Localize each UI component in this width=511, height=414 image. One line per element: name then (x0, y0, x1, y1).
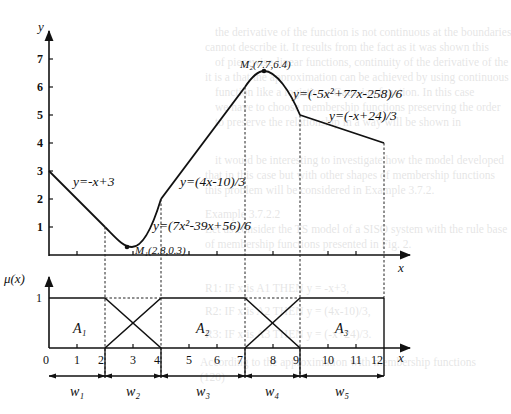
svg-text:0: 0 (43, 353, 49, 367)
x-tick-labels: 0 1 2 3 4 5 6 7 8 9 10 11 12 (43, 353, 383, 367)
svg-text:10: 10 (322, 353, 334, 367)
svg-text:9: 9 (293, 353, 299, 367)
svg-text:3: 3 (130, 353, 136, 367)
svg-text:5: 5 (186, 353, 192, 367)
piece-quadratic-4 (245, 71, 300, 115)
label-w2: w₂ (126, 384, 140, 399)
y-axis-label: y (36, 19, 44, 34)
y-tick-1: 1 (37, 220, 43, 234)
svg-text:11: 11 (350, 353, 362, 367)
y-tick-5: 5 (37, 108, 43, 122)
label-w4: w₄ (265, 384, 279, 399)
y-tick-3: 3 (37, 164, 43, 178)
y-tick-7: 7 (37, 52, 43, 66)
svg-text:7: 7 (237, 353, 243, 367)
point-m1 (125, 245, 130, 250)
top-plot: y x 1 2 3 4 5 6 7 (36, 19, 410, 275)
formula-5: y=(-x+24)/3 (327, 108, 397, 123)
label-w1: w₁ (70, 384, 84, 399)
label-m1: M₁(2.8,0.3) (134, 244, 186, 257)
interval-labels: w₁ w₂ w₃ w₄ w₅ (70, 384, 349, 399)
label-a3: A₃ (334, 321, 349, 336)
svg-text:6: 6 (214, 353, 220, 367)
label-w5: w₅ (335, 384, 349, 399)
svg-text:12: 12 (371, 353, 383, 367)
set-labels: A₁ A₂ A₃ (72, 321, 349, 336)
label-w3: w₃ (196, 384, 210, 399)
label-a2: A₂ (195, 321, 210, 336)
formula-3: y=(4x-10)/3 (178, 174, 246, 189)
formula-4: y=(-5x²+77x-258)/6 (291, 86, 402, 101)
label-a1: A₁ (72, 321, 86, 336)
x-axis-top-label: x (397, 260, 404, 275)
svg-text:1: 1 (74, 353, 80, 367)
y-tick-4: 4 (37, 136, 43, 150)
y-tick-labels: 1 2 3 4 5 6 7 (37, 52, 43, 234)
formula-labels: y=-x+3 y=(7x²-39x+56)/6 y=(4x-10)/3 y=(-… (71, 86, 402, 233)
label-m2: M₂(7.7,6.4) (239, 58, 291, 71)
svg-text:8: 8 (270, 353, 276, 367)
svg-text:2: 2 (98, 353, 104, 367)
y-tick-6: 6 (37, 80, 43, 94)
mu-axis-label: μ(x) (3, 271, 25, 286)
formula-1: y=-x+3 (71, 174, 115, 189)
x-axis-bottom-label: x (397, 350, 404, 365)
formula-2: y=(7x²-39x+56)/6 (151, 218, 251, 233)
y-tick-2: 2 (37, 192, 43, 206)
svg-text:4: 4 (154, 353, 160, 367)
membership-plot: μ(x) 1 x (3, 271, 410, 399)
mu-one-label: 1 (36, 291, 42, 305)
